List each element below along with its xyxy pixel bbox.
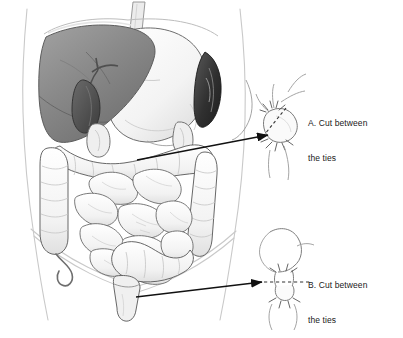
callout-b-line1: B. Cut between xyxy=(308,280,368,292)
ascending-colon xyxy=(40,148,68,255)
suture-tie-upper-b xyxy=(270,264,297,272)
medical-illustration-figure: A. Cut between the ties B. Cut between t… xyxy=(0,0,403,338)
rectum xyxy=(113,276,140,322)
callout-a-line2: the ties xyxy=(308,153,368,165)
callout-label-b: B. Cut between the ties xyxy=(308,257,368,338)
callout-a-line1: A. Cut between xyxy=(308,118,368,130)
sigmoid-tie-detail xyxy=(258,229,314,330)
callout-label-a: A. Cut between the ties xyxy=(308,95,368,187)
callout-b-line2: the ties xyxy=(308,315,368,327)
